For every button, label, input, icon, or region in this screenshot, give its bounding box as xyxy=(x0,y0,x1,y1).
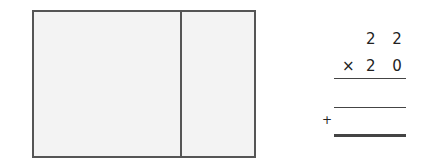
area-model-divider xyxy=(180,12,182,156)
partial-product-line xyxy=(334,107,406,108)
multiply-sign: × xyxy=(342,57,361,75)
product-line xyxy=(334,78,406,79)
area-model-box xyxy=(32,10,256,158)
plus-sign: + xyxy=(322,113,338,127)
sum-line xyxy=(334,134,406,137)
multiplier: 2 0 xyxy=(366,57,408,75)
multiplicand: 2 2 xyxy=(366,30,408,48)
